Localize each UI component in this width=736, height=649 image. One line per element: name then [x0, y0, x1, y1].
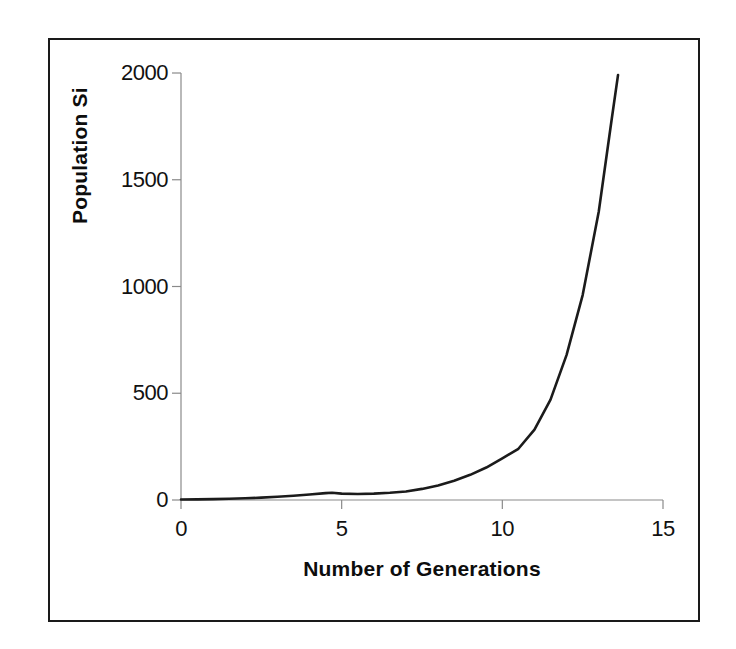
x-tick-label: 5	[336, 516, 348, 542]
y-tick-label: 1000	[90, 274, 168, 300]
chart-border-frame	[48, 38, 700, 622]
y-tick-label: 500	[90, 380, 168, 406]
chart-figure: 0500100015002000 051015 Number of Genera…	[0, 0, 736, 649]
x-axis-title: Number of Generations	[181, 557, 663, 581]
x-tick-label: 10	[491, 516, 514, 542]
y-axis-title: Population Si	[68, 4, 94, 224]
y-tick-label: 1500	[90, 167, 168, 193]
y-tick-label: 2000	[90, 60, 168, 86]
x-tick-label: 0	[175, 516, 187, 542]
y-tick-label: 0	[90, 487, 168, 513]
x-tick-label: 15	[651, 516, 674, 542]
